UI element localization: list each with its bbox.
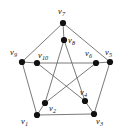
vertex-label-v1: v1 [21,117,28,126]
graph-edge [37,63,85,101]
graph-node-v7 [60,20,66,26]
vertex-label-subscript: 10 [42,54,48,61]
graph-node-v1 [34,112,40,118]
graph-node-v10 [34,60,40,66]
graph-node-v8 [61,37,67,43]
vertex-label-v8: v8 [68,36,75,45]
graph-canvas [0,0,125,136]
graph-edge [94,62,110,114]
graph-edge [37,114,94,115]
vertex-label-subscript: 9 [14,51,17,58]
graph-edge [22,62,37,115]
vertex-label-v9: v9 [10,48,17,57]
vertex-label-subscript: 2 [53,107,56,114]
vertex-label-subscript: 6 [89,52,92,59]
vertex-label-subscript: 5 [109,51,112,58]
vertex-label-subscript: 7 [62,10,65,17]
vertex-label-subscript: 1 [25,120,28,127]
vertex-label-subscript: 4 [84,91,87,98]
petersen-graph-figure: v1v2v3v4v5v6v7v8v9v10 [0,0,125,136]
graph-node-v5 [107,59,113,65]
vertex-label-v6: v6 [85,49,92,58]
vertex-label-v5: v5 [105,48,112,57]
graph-node-v6 [93,60,99,66]
vertex-label-v10: v10 [38,51,48,60]
vertex-label-v3: v3 [96,117,103,126]
graph-node-v2 [42,100,48,106]
node-layer [19,20,113,118]
vertex-label-subscript: 3 [100,120,103,127]
vertex-label-v7: v7 [58,7,65,16]
graph-node-v4 [82,98,88,104]
graph-node-v9 [19,59,25,65]
vertex-label-subscript: 8 [72,39,75,46]
vertex-label-v4: v4 [80,88,87,97]
vertex-label-v2: v2 [49,104,56,113]
edge-layer [22,23,110,115]
graph-edge [45,63,96,103]
